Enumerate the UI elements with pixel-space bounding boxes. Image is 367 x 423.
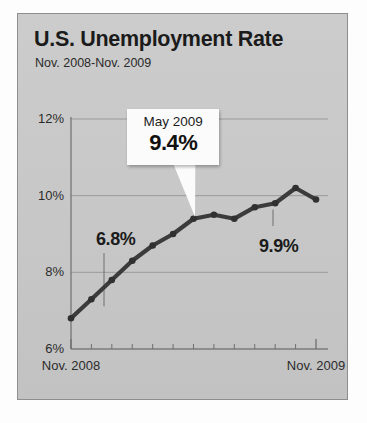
x-axis-ticks — [71, 339, 316, 349]
line-chart-plot — [18, 14, 349, 401]
y-axis-tick-label: 12% — [26, 111, 64, 126]
y-axis-tick-label: 10% — [26, 188, 64, 203]
end-value-annotation: 9.9% — [259, 236, 298, 257]
x-axis-tick-label: Nov. 2008 — [38, 358, 104, 373]
callout-value-label: 9.4% — [127, 130, 219, 156]
callout-box: May 2009 9.4% — [127, 109, 219, 165]
start-value-annotation: 6.8% — [96, 229, 135, 250]
chart-card: U.S. Unemployment Rate Nov. 2008-Nov. 20… — [17, 13, 348, 400]
x-axis-tick-label: Nov. 2009 — [283, 358, 349, 373]
y-axis-tick-label: 8% — [26, 264, 64, 279]
chart-page: U.S. Unemployment Rate Nov. 2008-Nov. 20… — [0, 0, 367, 423]
callout-month-label: May 2009 — [127, 114, 219, 129]
y-axis-tick-label: 6% — [26, 341, 64, 356]
